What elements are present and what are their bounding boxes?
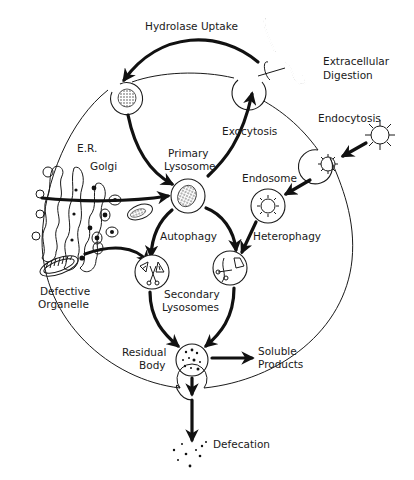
hydrolase-uptake-arrow [124,40,258,80]
extracellular-fragments-icon [258,18,306,84]
endosome [251,189,285,223]
label-endocytosis: Endocytosis [318,112,381,124]
organelle-to-autophagy-arrow [85,248,148,262]
label-heterophagy: Heterophagy [253,230,321,242]
label-exocytosis: Exocytosis [222,125,277,137]
label-defective-organelle-2: Organelle [38,298,89,310]
label-soluble-products-2: Products [258,358,303,370]
endocytic-vesicle [298,150,338,184]
label-secondary-lysosomes-1: Secondary [164,288,220,300]
endocytosis-arrow [343,143,366,156]
label-secondary-lysosomes-2: Lysosomes [162,301,219,313]
label-er: E.R. [77,142,97,154]
residual-body [176,344,208,376]
label-primary-lysosome-1: Primary [168,147,209,159]
er-golgi-icon [32,166,155,271]
label-soluble-products-1: Soluble [258,345,297,357]
expelled-particles-icon [173,441,207,467]
label-primary-lysosome-2: Lysosome [164,160,216,172]
primary-to-heterophagy-arrow [206,208,236,250]
primary-lysosome [171,179,205,213]
hydrolase-uptake-vesicle [111,83,143,115]
label-endosome: Endosome [242,172,297,184]
heterophagy-secondary-lysosome [213,251,247,285]
label-extracellular-digestion-1: Extracellular [323,55,390,67]
autophagy-secondary-lysosome [135,255,169,289]
label-residual-body-1: Residual [122,346,166,358]
label-residual-body-2: Body [139,359,166,371]
label-defective-organelle-1: Defective [40,285,90,297]
label-autophagy: Autophagy [160,230,217,242]
endocytosis-particle-icon [365,120,395,150]
uptake-to-primary-arrow [128,115,172,184]
label-golgi: Golgi [90,160,117,172]
label-extracellular-digestion-2: Digestion [323,69,373,81]
label-defecation: Defecation [213,438,270,450]
lysosome-pathway-diagram: Hydrolase Uptake Extracellular Digestion… [0,0,414,480]
label-hydrolase-uptake: Hydrolase Uptake [145,20,238,32]
defective-organelle-icon [37,252,80,281]
